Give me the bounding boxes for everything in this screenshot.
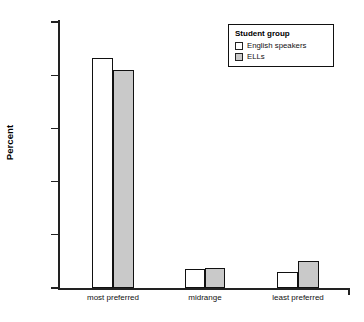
y-axis-tick xyxy=(51,287,58,288)
bar-english-speakers-least-preferred xyxy=(277,272,298,288)
y-axis-tick xyxy=(51,75,58,76)
x-axis-end-tick xyxy=(348,288,350,295)
y-axis-title: Percent xyxy=(4,113,15,173)
bar-chart: Percent 0.0%20.0%40.0%60.0%80.0%100.0% m… xyxy=(0,0,364,322)
legend-label-english-speakers: English speakers xyxy=(247,41,306,50)
bar-english-speakers-most-preferred xyxy=(92,58,113,288)
x-axis-category-label: least preferred xyxy=(253,293,343,302)
x-axis-category-label: most preferred xyxy=(68,293,158,302)
legend-item-english-speakers: English speakers xyxy=(235,41,327,50)
x-axis-line xyxy=(58,288,350,290)
legend-label-ells: ELLs xyxy=(247,52,265,61)
bar-ells-most-preferred xyxy=(113,70,134,288)
bar-ells-least-preferred xyxy=(298,261,319,288)
y-axis-tick xyxy=(51,21,58,22)
legend-title: Student group xyxy=(235,29,327,38)
legend-item-ells: ELLs xyxy=(235,52,327,61)
y-axis-tick xyxy=(51,181,58,182)
legend: Student group English speakers ELLs xyxy=(228,24,334,67)
bar-english-speakers-midrange xyxy=(185,269,205,288)
x-axis-category-label: midrange xyxy=(160,293,250,302)
legend-swatch-english-speakers xyxy=(235,42,243,50)
y-axis-tick xyxy=(51,128,58,129)
legend-swatch-ells xyxy=(235,53,243,61)
y-axis-tick xyxy=(51,234,58,235)
bar-ells-midrange xyxy=(205,268,225,288)
y-axis-line xyxy=(58,20,60,290)
